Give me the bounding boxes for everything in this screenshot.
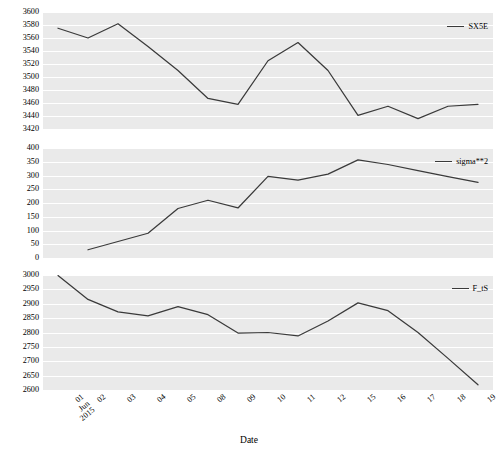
plot-area-panel-3 xyxy=(43,275,493,390)
legend-panel-2: sigma**2 xyxy=(435,157,488,166)
y-tick-label: 3500 xyxy=(23,73,39,81)
series-svg-panel-1 xyxy=(43,12,493,129)
y-tick-label: 150 xyxy=(27,213,39,221)
y-tick-label: 3600 xyxy=(23,8,39,16)
x-axis-label: Date xyxy=(0,435,498,445)
figure: 3420344034603480350035203540356035803600… xyxy=(0,0,498,454)
y-tick-label: 3520 xyxy=(23,60,39,68)
panel-sx5e: 3420344034603480350035203540356035803600… xyxy=(0,0,498,140)
panel-sigma2: 050100150200250300350400 sigma**2 xyxy=(0,140,498,265)
y-tick-labels-panel-2: 050100150200250300350400 xyxy=(0,148,39,258)
legend-label-fts: F_tS xyxy=(473,284,488,293)
y-tick-label: 2600 xyxy=(23,386,39,394)
y-tick-label: 2850 xyxy=(23,314,39,322)
y-tick-label: 3000 xyxy=(23,271,39,279)
y-tick-label: 2800 xyxy=(23,328,39,336)
y-tick-label: 3480 xyxy=(23,86,39,94)
x-tick-label: 17 xyxy=(426,393,438,405)
y-tick-label: 2950 xyxy=(23,285,39,293)
x-tick-label: 11 xyxy=(306,393,318,405)
y-tick-label: 3440 xyxy=(23,112,39,120)
x-tick-label: 08 xyxy=(216,393,228,405)
x-tick-label: 15 xyxy=(366,393,378,405)
y-tick-label: 300 xyxy=(27,171,39,179)
series-svg-panel-2 xyxy=(43,148,493,258)
gridline xyxy=(43,129,493,130)
x-tick-label: 02 xyxy=(96,393,108,405)
legend-panel-3: F_tS xyxy=(452,284,488,293)
plot-area-panel-1 xyxy=(43,12,493,129)
x-tick-label: 04 xyxy=(156,393,168,405)
y-tick-label: 2900 xyxy=(23,300,39,308)
x-tick-label: 01Jun2015 xyxy=(68,393,97,423)
x-tick-label: 09 xyxy=(246,393,258,405)
series-line-fts xyxy=(58,276,478,385)
legend-label-sx5e: SX5E xyxy=(468,22,488,31)
x-tick-label: 19 xyxy=(486,393,498,405)
y-tick-label: 400 xyxy=(27,144,39,152)
series-svg-panel-3 xyxy=(43,275,493,390)
x-tick-label: 03 xyxy=(126,393,138,405)
x-tick-label: 05 xyxy=(186,393,198,405)
y-tick-label: 3560 xyxy=(23,34,39,42)
y-tick-label: 0 xyxy=(35,254,39,262)
y-tick-label: 200 xyxy=(27,199,39,207)
panel-fts: 260026502700275028002850290029503000 F_t… xyxy=(0,265,498,454)
y-tick-label: 50 xyxy=(31,240,39,248)
y-tick-label: 100 xyxy=(27,226,39,234)
y-tick-label: 3580 xyxy=(23,21,39,29)
x-tick-labels: 01Jun20150203040508091011121516171819 xyxy=(43,393,493,429)
series-line-sigma2 xyxy=(88,160,478,250)
x-tick-label: 12 xyxy=(336,393,348,405)
y-tick-label: 2650 xyxy=(23,372,39,380)
y-tick-label: 2700 xyxy=(23,357,39,365)
x-tick-label: 16 xyxy=(396,393,408,405)
legend-swatch-sigma2 xyxy=(435,161,452,162)
x-tick-label: 18 xyxy=(456,393,468,405)
y-tick-label: 3460 xyxy=(23,99,39,107)
y-tick-label: 350 xyxy=(27,158,39,166)
legend-panel-1: SX5E xyxy=(447,22,488,31)
series-line-sx5e xyxy=(58,24,478,119)
y-tick-label: 2750 xyxy=(23,343,39,351)
legend-label-sigma2: sigma**2 xyxy=(456,157,488,166)
gridline xyxy=(43,390,493,391)
y-tick-label: 3540 xyxy=(23,47,39,55)
y-tick-labels-panel-3: 260026502700275028002850290029503000 xyxy=(0,275,39,390)
y-tick-label: 3420 xyxy=(23,125,39,133)
plot-area-panel-2 xyxy=(43,148,493,258)
gridline xyxy=(43,258,493,259)
y-tick-label: 250 xyxy=(27,185,39,193)
y-tick-labels-panel-1: 3420344034603480350035203540356035803600 xyxy=(0,12,39,129)
legend-swatch-fts xyxy=(452,288,469,289)
legend-swatch-sx5e xyxy=(447,26,464,27)
x-tick-label: 10 xyxy=(276,393,288,405)
